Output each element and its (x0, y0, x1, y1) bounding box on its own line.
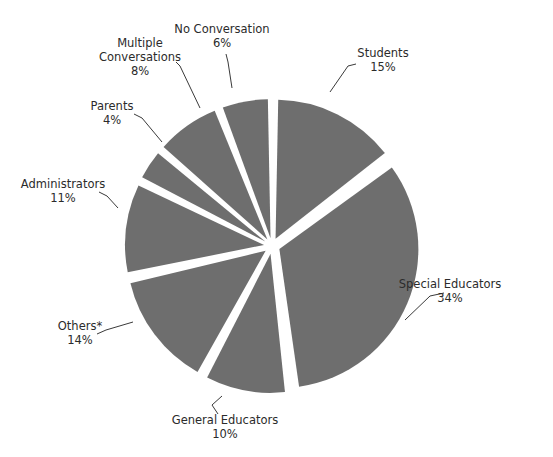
slice-percent: 6% (213, 36, 231, 50)
slice-label: Students (357, 46, 408, 60)
pie-chart: Students15%Special Educators34%General E… (0, 0, 553, 457)
slice-label: Parents (91, 99, 134, 113)
slice-percent: 4% (103, 113, 121, 127)
slice-percent: 14% (67, 333, 93, 347)
slice-percent: 15% (370, 60, 396, 74)
slice-label: No Conversation (174, 22, 269, 36)
slice-percent: 11% (50, 191, 76, 205)
slice-percent: 34% (437, 291, 463, 305)
slice-label: General Educators (172, 413, 278, 427)
pie-chart-svg: Students15%Special Educators34%General E… (0, 0, 553, 457)
slice-label: Others* (58, 319, 103, 333)
slice-label: Special Educators (399, 277, 502, 291)
slice-label: Administrators (21, 177, 105, 191)
slice-percent: 8% (131, 64, 149, 78)
slice-percent: 10% (212, 427, 238, 441)
